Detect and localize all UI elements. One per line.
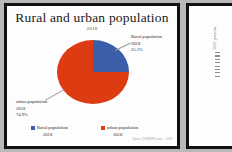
legend-label-rural-name: Rural population	[37, 125, 68, 130]
chart-canvas: Rural and urban population 2018 Rural po…	[7, 6, 177, 146]
legend-item-rural[interactable]: Rural population 2018	[31, 125, 68, 139]
legend-swatch-icon-rural	[31, 126, 35, 130]
urban-label-year: 2018	[16, 106, 47, 113]
axis-tick	[215, 69, 220, 70]
urban-label-value: 74.9%	[16, 112, 47, 119]
chart-title: Rural and urban population	[7, 10, 177, 26]
axis-tick	[215, 66, 220, 67]
legend-label-rural: Rural population 2018	[37, 125, 68, 139]
chart-canvas-right: 1000 persons	[189, 6, 232, 146]
y-axis-label: 1000 persons	[212, 26, 217, 50]
legend-label-rural-year: 2018	[37, 132, 68, 139]
rural-data-label: Rural population 2018 25.1%	[131, 34, 162, 54]
pie-slices[interactable]	[57, 40, 129, 104]
rural-label-year: 2018	[131, 41, 162, 48]
pie-chart[interactable]	[57, 40, 129, 104]
urban-label-name: urban population	[16, 99, 47, 106]
axis-tick	[215, 76, 220, 77]
legend-label-urban-name: urban population	[107, 125, 138, 130]
chart-slide-right: 1000 persons	[186, 3, 232, 149]
y-axis-ticks	[215, 52, 220, 77]
rural-label-value: 25.1%	[131, 47, 162, 54]
screenshot-root: Rural and urban population 2018 Rural po…	[0, 0, 232, 152]
chart-subtitle: 2018	[7, 26, 177, 31]
axis-tick	[215, 62, 220, 63]
source-note: Source: SSSRRRR.com — 2018	[133, 137, 172, 141]
axis-tick	[215, 52, 220, 53]
axis-tick	[215, 72, 220, 73]
axis-tick	[215, 59, 220, 60]
chart-slide-left: Rural and urban population 2018 Rural po…	[4, 3, 180, 149]
legend-swatch-icon-urban	[101, 126, 105, 130]
axis-tick	[215, 55, 220, 56]
rural-label-name: Rural population	[131, 34, 162, 41]
urban-data-label: urban population 2018 74.9%	[16, 99, 47, 119]
